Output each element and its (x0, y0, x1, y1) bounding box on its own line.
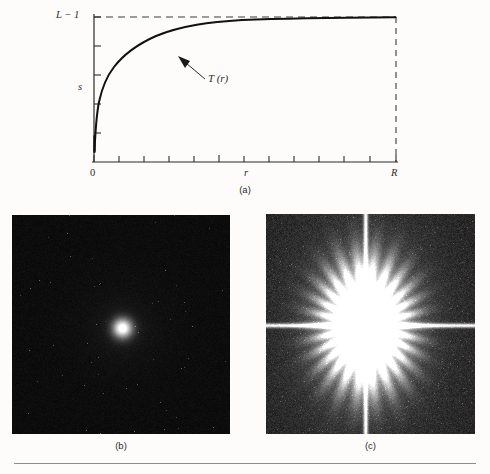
fourier-spectrum-image-c (266, 214, 475, 434)
y-axis-label: s (78, 82, 82, 93)
origin-label: 0 (90, 168, 95, 179)
annotation-leader-line (186, 63, 205, 79)
caption-c: (c) (266, 440, 475, 451)
textbook-figure: L − 1 s 0 r R T (r) (a) (b) (c) (0, 0, 490, 474)
panel-b-spectrum (12, 215, 230, 434)
x-axis-ticks (94, 155, 396, 162)
panel-c-spectrum (266, 214, 475, 434)
bottom-divider (14, 463, 476, 464)
curve-annotation-label: T (r) (208, 73, 228, 84)
panel-a-plot: L − 1 s 0 r R T (r) (a) (0, 0, 490, 200)
y-axis-max-label: L − 1 (56, 10, 79, 21)
x-axis-label: r (244, 168, 248, 179)
x-axis-max-label: R (391, 168, 397, 179)
caption-b: (b) (12, 440, 230, 451)
fourier-spectrum-image-b (12, 215, 230, 434)
transformation-curve (95, 17, 396, 151)
annotation-arrow-icon (178, 56, 190, 68)
caption-a: (a) (0, 184, 490, 195)
